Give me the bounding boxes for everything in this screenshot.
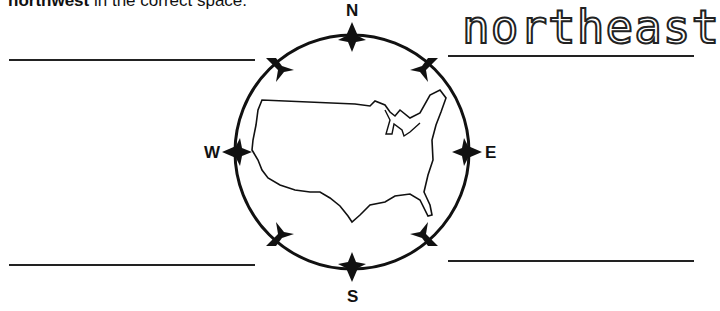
east-label: E xyxy=(485,143,496,163)
compass-points xyxy=(222,22,482,282)
west-label: W xyxy=(204,143,220,163)
south-label: S xyxy=(347,287,358,307)
north-label: N xyxy=(346,1,358,21)
usa-map-outline xyxy=(252,90,446,222)
